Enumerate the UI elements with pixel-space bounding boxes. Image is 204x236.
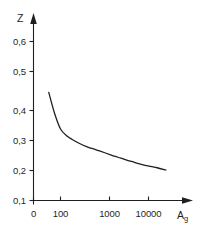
y-axis-title: Z [17,13,23,24]
x-tick-label-100: 100 [41,209,81,219]
chart-figure: Z 0,6 0,5 0,4 0,3 0,2 0,1 0 100 1000 100… [0,0,204,236]
y-tick-marks [30,42,34,201]
x-axis-title-base: A [177,209,184,221]
x-tick-label-10000: 10000 [129,209,169,219]
x-tick-label-1000: 1000 [90,209,130,219]
data-curve-z [49,92,166,170]
y-tick-label-0-2: 0,2 [4,166,26,176]
y-tick-label-0-6: 0,6 [4,37,26,47]
x-axis-title: Ag [177,210,188,223]
x-axis-title-subscript: g [184,214,188,223]
y-axis-arrow-icon [30,13,37,24]
y-tick-label-0-4: 0,4 [4,106,26,116]
y-tick-label-0-5: 0,5 [4,67,26,77]
plot-area [0,0,204,236]
y-tick-label-0-1: 0,1 [4,196,26,206]
y-tick-label-0-3: 0,3 [4,136,26,146]
x-axis-arrow-icon [182,197,193,203]
